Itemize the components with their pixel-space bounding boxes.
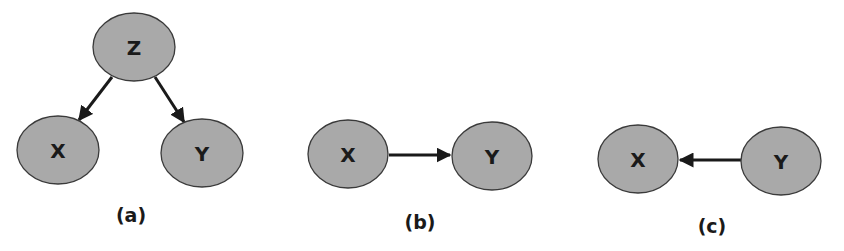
svg-text:Y: Y — [484, 145, 500, 169]
node-y: Y — [741, 127, 821, 195]
causal-diagrams: Z X Y (a) X Y (b) X Y — [0, 0, 844, 251]
node-y: Y — [452, 122, 532, 190]
caption-b: (b) — [405, 211, 436, 233]
svg-text:Y: Y — [773, 150, 789, 174]
edge-z-to-x — [79, 77, 112, 120]
node-x: X — [598, 125, 678, 193]
svg-text:X: X — [630, 148, 646, 172]
edge-z-to-y — [155, 77, 184, 122]
node-y: Y — [161, 119, 243, 187]
caption-a: (a) — [116, 204, 146, 226]
svg-text:Y: Y — [194, 142, 210, 166]
diagram-b-x-causes-y: X Y (b) — [308, 120, 532, 233]
node-x: X — [308, 120, 388, 188]
node-z: Z — [93, 13, 175, 81]
node-x: X — [17, 116, 99, 184]
svg-text:Z: Z — [127, 36, 142, 60]
diagram-c-y-causes-x: X Y (c) — [598, 125, 821, 237]
diagram-a-fork: Z X Y (a) — [17, 13, 243, 226]
svg-text:X: X — [340, 143, 356, 167]
svg-text:X: X — [50, 139, 66, 163]
caption-c: (c) — [698, 215, 727, 237]
